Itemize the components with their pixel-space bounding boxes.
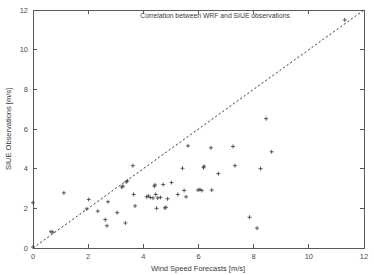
data-point: [186, 144, 190, 148]
plot-title: Correlation between WRF and SIUE observa…: [140, 12, 290, 19]
x-tick-label: 4: [141, 252, 145, 261]
data-point: [184, 195, 188, 199]
data-point: [233, 164, 237, 168]
data-point: [209, 146, 213, 150]
data-point: [103, 218, 107, 222]
one-to-one-line: [33, 10, 364, 248]
data-markers: [31, 18, 347, 249]
y-tick-label: 6: [24, 125, 28, 134]
data-point: [85, 207, 89, 211]
y-tick-labels: 024681012: [20, 6, 28, 253]
data-point: [161, 183, 165, 187]
reference-line: [33, 10, 364, 248]
y-tick-label: 12: [20, 6, 28, 15]
data-point: [216, 172, 220, 176]
data-point: [176, 192, 180, 196]
x-tick-label: 0: [31, 252, 35, 261]
y-tick-label: 2: [24, 204, 28, 213]
x-tick-labels: 024681012: [31, 252, 368, 261]
x-tick-label: 2: [86, 252, 90, 261]
data-point: [154, 192, 158, 196]
data-point: [62, 191, 66, 195]
data-point: [131, 164, 135, 168]
data-point: [133, 204, 137, 208]
data-point: [255, 226, 259, 230]
data-point: [166, 197, 170, 201]
data-point: [210, 188, 214, 192]
data-point: [105, 224, 109, 228]
y-tick-label: 4: [24, 164, 28, 173]
data-point: [151, 196, 155, 200]
data-point: [169, 181, 173, 185]
data-point: [123, 221, 127, 225]
y-axis-title: SIUE Observations [m/s]: [4, 88, 13, 170]
x-tick-label: 12: [360, 252, 368, 261]
x-tick-label: 10: [305, 252, 313, 261]
data-point: [196, 188, 200, 192]
data-point: [106, 200, 110, 204]
data-point: [248, 215, 252, 219]
y-tick-label: 0: [24, 244, 28, 253]
data-point: [115, 211, 119, 215]
data-point: [182, 188, 186, 192]
x-tick-label: 8: [252, 252, 256, 261]
data-point: [158, 195, 162, 199]
data-point: [51, 230, 55, 234]
data-point: [270, 150, 274, 154]
y-tick-label: 8: [24, 85, 28, 94]
data-point: [264, 117, 268, 121]
plot-canvas: 024681012 024681012 Correlation between …: [0, 0, 374, 275]
data-point: [96, 209, 100, 213]
data-point: [181, 166, 185, 170]
data-point: [132, 192, 136, 196]
data-point: [87, 197, 91, 201]
data-point: [259, 167, 263, 171]
data-point: [231, 144, 235, 148]
data-point: [31, 201, 35, 205]
x-axis-title: Wind Speed Forecasts [m/s]: [151, 264, 245, 273]
data-point: [155, 206, 159, 210]
scatter-plot-figure: 024681012 024681012 Correlation between …: [0, 0, 374, 275]
y-tick-label: 10: [20, 45, 28, 54]
x-tick-label: 6: [196, 252, 200, 261]
data-point: [343, 18, 347, 22]
data-point: [156, 196, 160, 200]
